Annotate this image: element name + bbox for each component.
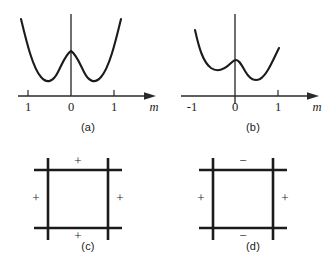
- x-axis-arrowhead: [144, 92, 156, 100]
- panel-a-svg: 1 0 1 m: [8, 6, 168, 121]
- tick-label-right: 1: [275, 100, 281, 114]
- tick-label-left: -1: [187, 100, 197, 114]
- caption-b: (b): [173, 121, 333, 133]
- panel-b-curve: [195, 30, 279, 80]
- x-axis-label: m: [149, 100, 158, 114]
- panel-a-plot: 1 0 1 m: [8, 6, 168, 121]
- panel-b-svg: -1 0 1 m: [173, 6, 333, 121]
- tick-label-origin: 0: [68, 100, 74, 114]
- spin-right: +: [281, 190, 288, 205]
- tick-label-right: 1: [111, 100, 117, 114]
- spin-top: +: [74, 153, 81, 168]
- caption-d: (d): [173, 240, 333, 252]
- figure-container: 1 0 1 m (a) -1 0 1 m (b): [0, 0, 333, 262]
- spin-left: +: [197, 190, 204, 205]
- x-axis-arrowhead: [307, 92, 319, 100]
- spin-left: +: [32, 190, 39, 205]
- x-axis-label: m: [312, 100, 321, 114]
- tick-label-left: 1: [25, 100, 31, 114]
- panel-b-plot: -1 0 1 m: [173, 6, 333, 121]
- tick-label-origin: 0: [232, 100, 238, 114]
- spin-right: +: [116, 190, 123, 205]
- spin-top: −: [239, 153, 246, 168]
- caption-c: (c): [8, 240, 168, 252]
- caption-a: (a): [8, 121, 168, 133]
